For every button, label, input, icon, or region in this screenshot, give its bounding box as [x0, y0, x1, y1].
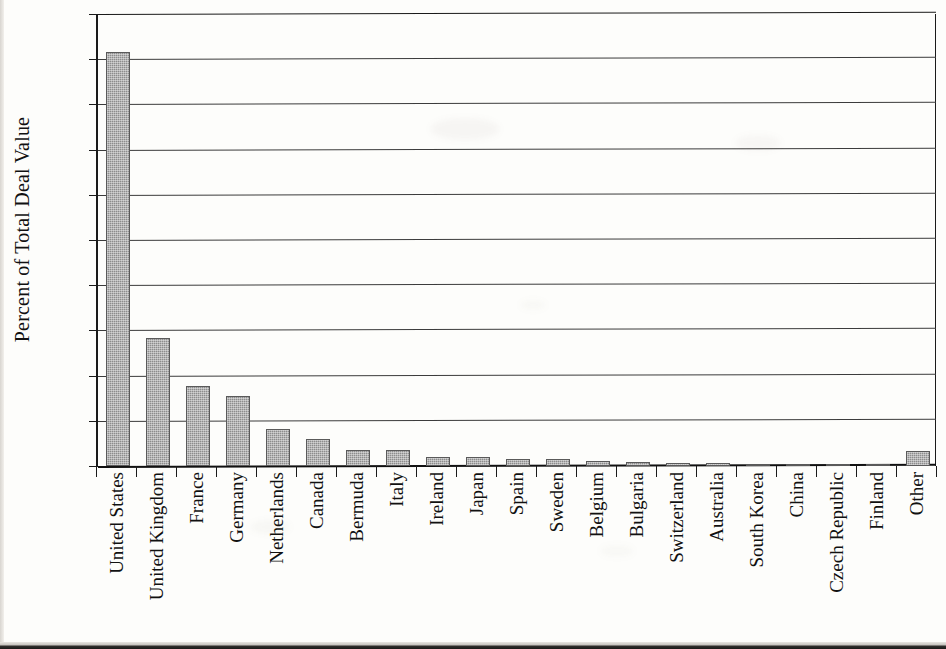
bar-slot	[98, 14, 138, 466]
bar-slot	[738, 14, 778, 466]
x-axis-label-slot: Netherlands	[256, 472, 296, 632]
bar[interactable]	[106, 52, 130, 466]
x-axis-tick-label: Germany	[227, 472, 246, 543]
x-axis-label-slot: Czech Republic	[816, 472, 856, 632]
y-axis-tick	[89, 240, 98, 241]
bar-chart: Percent of Total Deal Value 0%5%10%15%20…	[0, 0, 946, 649]
bar-slot	[778, 14, 818, 466]
x-axis-label-slot: Finland	[856, 472, 896, 632]
bar[interactable]	[146, 338, 170, 466]
bars-group	[98, 14, 935, 466]
bar-slot	[618, 14, 658, 466]
y-axis-tick	[89, 421, 98, 422]
bar-slot	[538, 14, 578, 466]
x-axis-label-slot: South Korea	[736, 472, 776, 632]
scan-edge-left	[0, 0, 4, 649]
scan-edge-bottom	[0, 642, 946, 649]
y-axis-tick	[89, 195, 98, 196]
x-axis-tick-label: Italy	[387, 472, 406, 507]
bar-slot	[898, 14, 938, 466]
y-axis-tick	[89, 330, 98, 331]
bar[interactable]	[306, 439, 330, 466]
bar-slot	[258, 14, 298, 466]
x-axis-tick-label: Australia	[707, 472, 726, 542]
bar-slot	[498, 14, 538, 466]
x-axis-tick-label: Czech Republic	[827, 472, 846, 593]
bar-slot	[178, 14, 218, 466]
plot-area	[96, 14, 936, 466]
x-axis-tick-label: United Kingdom	[147, 472, 166, 600]
x-axis-tick-label: Canada	[307, 472, 326, 529]
bar-slot	[818, 14, 858, 466]
x-axis-label-slot: United States	[96, 472, 136, 632]
bar[interactable]	[186, 386, 210, 466]
x-axis-tick-label: Spain	[507, 472, 526, 515]
x-axis-label-slot: Germany	[216, 472, 256, 632]
x-axis-label-slot: China	[776, 472, 816, 632]
x-axis-label-slot: France	[176, 472, 216, 632]
bar-slot	[418, 14, 458, 466]
x-axis-tick-label: Bulgaria	[627, 472, 646, 537]
x-axis-label-slot: Japan	[456, 472, 496, 632]
bar-slot	[458, 14, 498, 466]
bar[interactable]	[266, 429, 290, 466]
x-axis-label-slot: Switzerland	[656, 472, 696, 632]
bar-slot	[858, 14, 898, 466]
x-axis-tick-label: South Korea	[747, 472, 766, 568]
bar[interactable]	[546, 459, 570, 466]
x-axis-tick-label: Ireland	[427, 472, 446, 526]
x-axis-tick-label: Japan	[467, 472, 486, 515]
bar[interactable]	[346, 450, 370, 466]
y-axis-tick	[89, 14, 98, 15]
x-axis-tick-label: Bermuda	[347, 472, 366, 542]
y-axis-tick	[89, 285, 98, 286]
bar[interactable]	[426, 457, 450, 466]
bar[interactable]	[466, 457, 490, 466]
x-axis-label-slot: Italy	[376, 472, 416, 632]
x-axis-label-slot: Australia	[696, 472, 736, 632]
y-axis-tick	[89, 376, 98, 377]
x-axis-tick-label: United States	[107, 472, 126, 574]
x-axis-tick-label: Switzerland	[667, 472, 686, 563]
x-axis-tick-label: Other	[907, 472, 926, 515]
x-axis-label-slot: Canada	[296, 472, 336, 632]
x-axis-label-slot: Ireland	[416, 472, 456, 632]
x-axis-tick-label: Netherlands	[267, 472, 286, 564]
y-axis-tick	[89, 59, 98, 60]
bar[interactable]	[386, 450, 410, 466]
x-axis-tick	[936, 466, 937, 477]
y-axis-title: Percent of Total Deal Value	[11, 20, 34, 440]
bar[interactable]	[226, 396, 250, 466]
y-axis-tick	[89, 150, 98, 151]
bar[interactable]	[506, 459, 530, 466]
bar-slot	[298, 14, 338, 466]
bar-slot	[218, 14, 258, 466]
x-axis-label-slot: Bermuda	[336, 472, 376, 632]
bar[interactable]	[906, 451, 930, 466]
x-axis-label-slot: Sweden	[536, 472, 576, 632]
x-axis-tick-labels: United StatesUnited KingdomFranceGermany…	[96, 472, 936, 632]
bar-slot	[338, 14, 378, 466]
x-axis-label-slot: Spain	[496, 472, 536, 632]
bar-slot	[658, 14, 698, 466]
bar-slot	[138, 14, 178, 466]
x-axis-tick-label: France	[187, 472, 206, 524]
x-axis-tick-label: China	[787, 472, 806, 517]
bar-slot	[578, 14, 618, 466]
x-axis-tick-label: Sweden	[547, 472, 566, 532]
bar-slot	[698, 14, 738, 466]
x-axis-label-slot: Belgium	[576, 472, 616, 632]
y-axis-tick	[89, 104, 98, 105]
bar-slot	[378, 14, 418, 466]
x-axis-label-slot: Other	[896, 472, 936, 632]
x-axis-tick-label: Finland	[867, 472, 886, 530]
x-axis-label-slot: United Kingdom	[136, 472, 176, 632]
x-axis-label-slot: Bulgaria	[616, 472, 656, 632]
x-axis-tick-label: Belgium	[587, 472, 606, 537]
